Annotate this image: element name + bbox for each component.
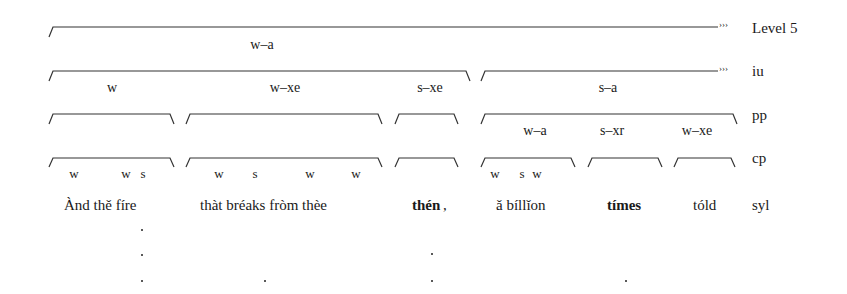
cp-mark: w: [214, 167, 223, 180]
pp-node-label: w–xe: [682, 124, 712, 138]
pp-node-label: s–xr: [600, 124, 624, 138]
iu-node-label: w–xe: [270, 81, 300, 95]
cp-mark: w: [490, 167, 499, 180]
pp-bracket-2: [186, 114, 382, 124]
grid-dot: [141, 280, 143, 282]
syllable-group-bold: thén: [412, 198, 440, 213]
syllable-group: tóld: [693, 198, 716, 213]
bracket-diagram: [0, 0, 847, 294]
continuation-marker: ›››: [719, 64, 728, 73]
cp-mark: s: [519, 167, 524, 180]
continuation-marker: ›››: [719, 20, 728, 29]
level-label-pp: pp: [752, 108, 767, 123]
punctuation-comma: ,: [443, 198, 447, 213]
grid-dot: [141, 229, 143, 231]
grid-dot: [431, 253, 433, 255]
cp-bracket-6: [674, 158, 735, 167]
syllable-group: thàt bréaks fròm thèe: [200, 198, 327, 213]
iu-node-label: s–a: [599, 81, 618, 95]
level-label-cp: cp: [752, 151, 766, 166]
iu-node-label: s–xe: [417, 81, 443, 95]
cp-mark: w: [351, 167, 360, 180]
pp-bracket-3: [395, 114, 458, 124]
grid-dot: [625, 280, 627, 282]
syllable-group-bold: tímes: [607, 198, 641, 213]
cp-mark: w: [121, 167, 130, 180]
syllable-group: ǎ bíllǐon: [496, 198, 546, 213]
level-label-level5: Level 5: [752, 21, 797, 36]
grid-dot: [264, 280, 266, 282]
cp-mark: s: [140, 167, 145, 180]
level-label-syl: syl: [752, 198, 770, 213]
grid-dot: [431, 280, 433, 282]
syllable-group: Ànd thě fíre: [64, 198, 136, 213]
cp-mark: w: [305, 167, 314, 180]
iu-node-label: w: [107, 81, 117, 95]
cp-mark: w: [532, 167, 541, 180]
cp-bracket-3: [395, 158, 458, 167]
grid-dot: [141, 254, 143, 256]
level-label-iu: iu: [752, 64, 764, 79]
cp-mark: w: [69, 167, 78, 180]
level5-node-label: w–a: [250, 38, 273, 52]
cp-mark: s: [252, 167, 257, 180]
cp-bracket-5: [588, 158, 662, 167]
cp-bracket-1: [49, 158, 174, 167]
level5-bracket: [49, 27, 718, 37]
pp-bracket-1: [49, 114, 174, 124]
pp-node-label: w–a: [523, 124, 546, 138]
